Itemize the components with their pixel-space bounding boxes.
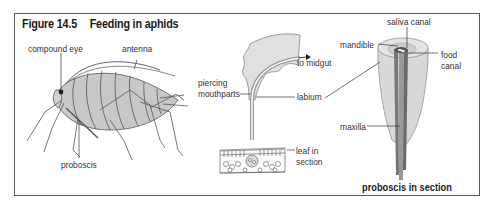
label-canal: canal — [441, 60, 461, 71]
label-proboscis: proboscis — [61, 159, 97, 170]
label-antenna: antenna — [122, 43, 152, 54]
label-compound-eye: compound eye — [28, 43, 83, 54]
diagram-artwork — [0, 0, 492, 203]
label-saliva-canal: saliva canal — [387, 16, 431, 27]
label-mandible: mandible — [340, 39, 374, 50]
label-food: food — [441, 49, 457, 60]
feeding-leader-lines — [240, 94, 295, 150]
label-to-midgut: to midgut — [297, 57, 331, 68]
proboscis-section-illustration — [378, 38, 428, 180]
label-labium: labium — [297, 91, 322, 102]
label-leaf-in: leaf in — [296, 145, 318, 156]
label-mouthparts: mouthparts — [198, 88, 240, 99]
caption-proboscis-in-section: proboscis in section — [362, 181, 452, 193]
label-maxilla: maxilla — [340, 121, 366, 132]
label-section: section — [296, 156, 322, 167]
aphid-illustration — [27, 62, 188, 160]
label-piercing: piercing — [198, 77, 227, 88]
